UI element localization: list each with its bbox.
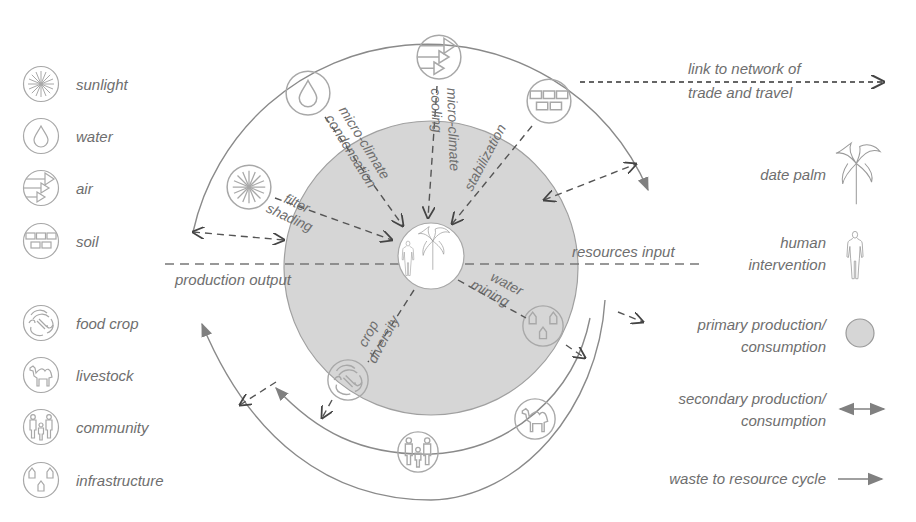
loop-link-right-arrow xyxy=(618,312,643,322)
legend-item-sunlight: sunlight xyxy=(24,67,129,102)
legend-label: water xyxy=(76,128,114,145)
legend-item-soil: soil xyxy=(24,224,100,259)
water-icon xyxy=(24,119,59,154)
legend-item-community: community xyxy=(24,410,151,445)
secondary-production-label-2: consumption xyxy=(741,412,826,429)
crop-out-arrow xyxy=(322,400,332,418)
legend-item-food-crop: food crop xyxy=(24,306,139,341)
svg-text:micro-climate: micro-climate xyxy=(444,88,463,172)
legend-label: soil xyxy=(76,233,99,250)
legend-label: air xyxy=(76,180,94,197)
legend-left: sunlight water air soil food crop livest… xyxy=(24,67,164,498)
secondary-production-label-1: secondary production/ xyxy=(678,390,827,407)
center-circle xyxy=(398,223,464,289)
legend-label: food crop xyxy=(76,315,139,332)
secondary-arrow-left xyxy=(193,232,284,240)
legend-item-air: air xyxy=(24,171,94,206)
secondary-arrow-right xyxy=(544,164,636,200)
legend-right: date palm human intervention primary pro… xyxy=(669,143,884,487)
waste-cycle-label: waste to resource cycle xyxy=(669,470,826,487)
loop-link-left-arrow xyxy=(240,382,276,405)
legend-label: livestock xyxy=(76,367,135,384)
air-icon xyxy=(24,171,59,206)
sunlight-icon xyxy=(227,165,271,209)
soil-icon xyxy=(24,224,59,259)
legend-label: infrastructure xyxy=(76,472,164,489)
legend-label: community xyxy=(76,419,150,436)
food-crop-icon xyxy=(24,306,59,341)
primary-production-swatch xyxy=(846,319,874,347)
air-icon xyxy=(417,35,461,79)
sunlight-icon xyxy=(24,67,59,102)
human-intervention-label-2: intervention xyxy=(748,256,826,273)
production-output-label: production output xyxy=(174,271,292,288)
community-icon xyxy=(24,410,59,445)
legend-item-infrastructure: infrastructure xyxy=(24,463,164,498)
network-link-label-2: trade and travel xyxy=(688,84,793,101)
livestock-icon xyxy=(515,399,555,439)
livestock-icon xyxy=(24,358,59,393)
network-link-label-1: link to network of xyxy=(688,60,802,77)
human-icon xyxy=(847,231,863,278)
legend-item-water: water xyxy=(24,119,114,154)
legend-item-livestock: livestock xyxy=(24,358,136,393)
human-intervention-label-1: human xyxy=(780,234,826,251)
infrastructure-icon xyxy=(24,463,59,498)
primary-production-label-2: consumption xyxy=(741,338,826,355)
community-icon xyxy=(398,432,438,472)
ecosystem-diagram: sunlight water air soil food crop livest… xyxy=(0,0,916,522)
legend-label: sunlight xyxy=(76,76,129,93)
date-palm-icon xyxy=(836,143,880,204)
resources-input-label: resources input xyxy=(572,243,675,260)
water-icon xyxy=(286,71,330,115)
soil-icon xyxy=(527,79,571,123)
svg-text:cooling: cooling xyxy=(428,88,446,133)
primary-production-label-1: primary production/ xyxy=(697,316,828,333)
date-palm-label: date palm xyxy=(760,166,826,183)
